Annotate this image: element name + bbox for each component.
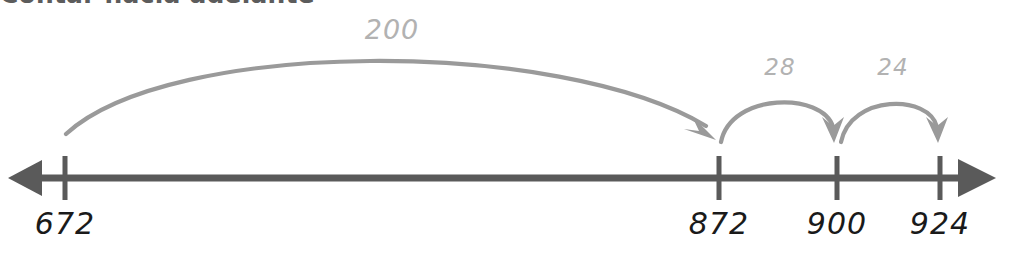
tick-label-924: 924 [910,206,970,241]
arrow-right-icon [958,159,996,197]
jump-label-28: 28 [764,54,795,80]
tick-900 [835,156,840,200]
arrow-left-icon [8,160,42,196]
jump-label-24: 24 [877,54,908,80]
tick-672 [63,156,68,200]
tick-872 [717,156,722,200]
tick-label-672: 672 [35,206,95,241]
tick-label-872: 872 [689,206,749,241]
worksheet-canvas: Contar hacia adelante [0,0,1015,266]
jump-arc-28 [721,102,844,143]
tick-label-900: 900 [807,206,867,241]
jump-label-200: 200 [365,14,420,45]
jump-arc-24 [841,104,948,143]
number-line-axis [8,156,996,200]
jump-arc-200 [66,61,716,140]
tick-924 [938,156,943,200]
jump-arcs [66,61,948,143]
